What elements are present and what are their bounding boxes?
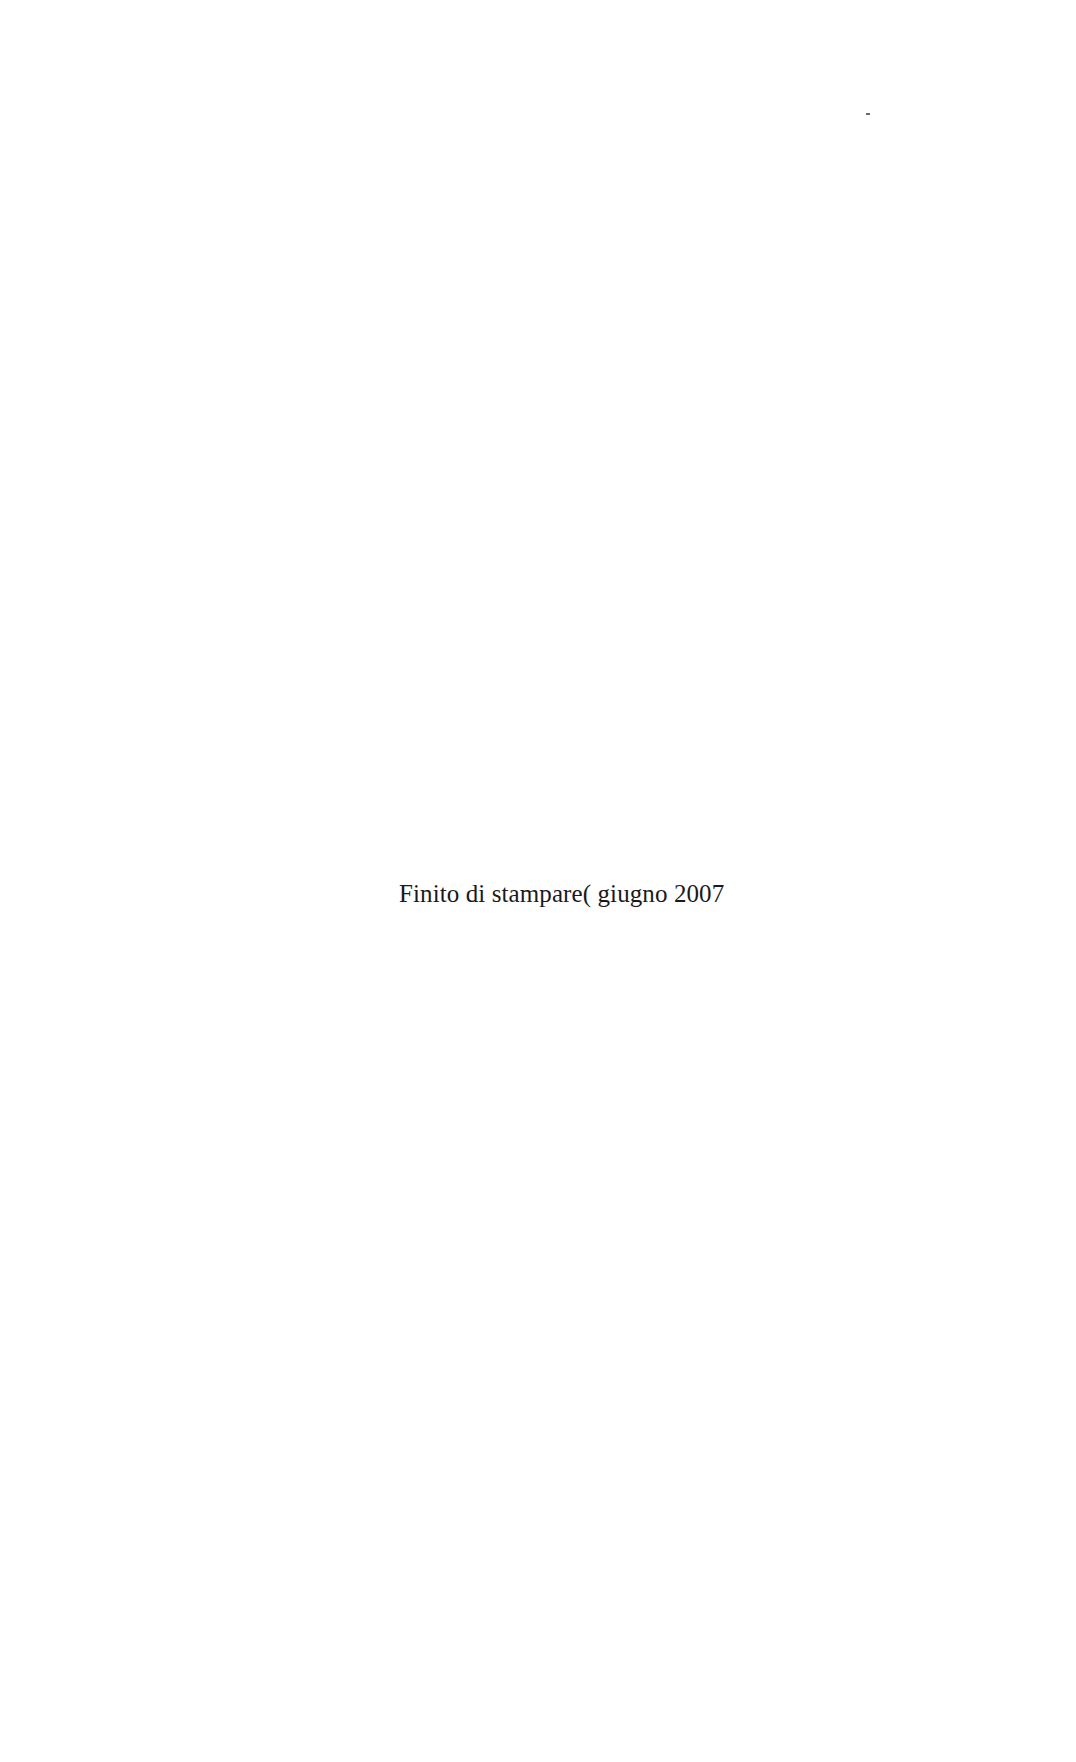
colophon-text: Finito di stampare( giugno 2007 [399, 879, 724, 909]
document-page: Finito di stampare( giugno 2007 [0, 0, 1076, 1762]
scan-artifact [866, 113, 870, 115]
